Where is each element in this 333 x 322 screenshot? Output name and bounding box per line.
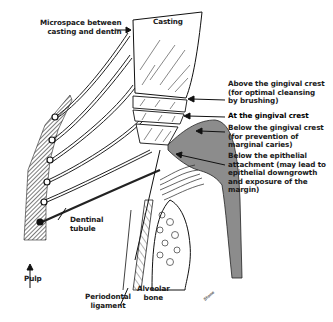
label-at-crest: At the gingival crest xyxy=(228,112,309,121)
label-microspace: Microspace between casting and dentin xyxy=(40,19,121,36)
label-below-crest: Below the gingival crest (for prevention… xyxy=(228,124,324,150)
label-casting: Casting xyxy=(153,18,183,27)
alveolar-bone xyxy=(152,200,190,290)
label-periodontal-ligament: Periodontal ligament xyxy=(85,293,131,310)
label-dentinal-tubule: Dentinal tubule xyxy=(70,216,104,233)
label-alveolar-bone: Alveolar bone xyxy=(137,285,170,302)
margin-band-at xyxy=(133,110,184,124)
label-above-crest: Above the gingival crest (for optimal cl… xyxy=(228,80,324,106)
label-below-attachment: Below the epithelial attachment (may lea… xyxy=(228,152,326,195)
periodontal-ligament xyxy=(133,200,153,290)
label-pulp: Pulp xyxy=(24,275,42,284)
